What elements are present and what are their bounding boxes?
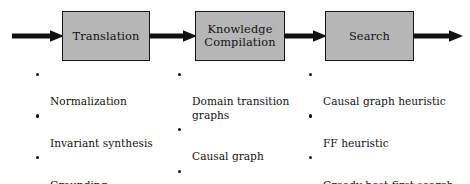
feature-label: Domain transition graphs — [192, 95, 289, 121]
stage-label-translation: Translation — [70, 30, 143, 43]
feature-column-search: Causal graph heuristic FF heuristic Gree… — [303, 68, 468, 184]
list-item: Grounding — [30, 152, 170, 184]
feature-label: Normalization — [50, 95, 127, 107]
pipeline-row: Translation Knowledge Compilation Search — [0, 0, 470, 64]
feature-list-translation: Normalization Invariant synthesis Ground… — [30, 68, 170, 184]
bullet-icon — [178, 128, 181, 131]
feature-label: Causal graph heuristic — [323, 95, 446, 107]
bullet-icon — [309, 156, 312, 159]
list-item: Domain transition graphs — [172, 68, 302, 122]
feature-label: Invariant synthesis — [50, 137, 153, 149]
arrow-search-to-output — [413, 29, 463, 43]
feature-label: FF heuristic — [323, 137, 389, 149]
bullet-icon — [36, 114, 39, 117]
feature-list-knowledge-compilation: Domain transition graphs Causal graph Su… — [172, 68, 302, 184]
list-item: FF heuristic — [303, 110, 468, 151]
feature-columns: Normalization Invariant synthesis Ground… — [0, 68, 470, 184]
list-item: Causal graph heuristic — [303, 68, 468, 109]
stage-label-search: Search — [346, 30, 393, 43]
stage-box-knowledge-compilation[interactable]: Knowledge Compilation — [195, 11, 285, 61]
list-item: Normalization — [30, 68, 170, 109]
feature-column-translation: Normalization Invariant synthesis Ground… — [30, 68, 170, 184]
stage-box-translation[interactable]: Translation — [62, 11, 150, 61]
list-item: Successor generator — [172, 165, 302, 184]
arrow-translation-to-knowledge-compilation — [149, 29, 197, 43]
arrow-knowledge-compilation-to-search — [284, 29, 327, 43]
bullet-icon — [178, 73, 181, 76]
bullet-icon — [36, 156, 39, 159]
feature-list-search: Causal graph heuristic FF heuristic Gree… — [303, 68, 468, 184]
bullet-icon — [309, 114, 312, 117]
pipeline-diagram: Translation Knowledge Compilation Search — [0, 0, 470, 184]
feature-label: Grounding — [50, 179, 108, 184]
bullet-icon — [36, 73, 39, 76]
stage-box-search[interactable]: Search — [325, 11, 414, 61]
bullet-icon — [178, 170, 181, 173]
list-item: Invariant synthesis — [30, 110, 170, 151]
feature-label: Causal graph — [192, 150, 264, 162]
feature-label: Greedy best-first search — [323, 179, 453, 184]
feature-column-knowledge-compilation: Domain transition graphs Causal graph Su… — [172, 68, 302, 184]
list-item: Causal graph — [172, 123, 302, 164]
list-item: Greedy best-first search — [303, 152, 468, 184]
bullet-icon — [309, 73, 312, 76]
stage-label-knowledge-compilation: Knowledge Compilation — [196, 23, 284, 49]
arrow-input-to-translation — [12, 29, 64, 43]
